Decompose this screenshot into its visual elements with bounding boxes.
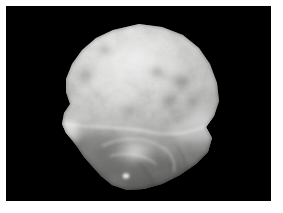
image-page: [0, 0, 283, 213]
specimen-photograph: [6, 6, 271, 201]
photo-frame: [6, 6, 271, 201]
